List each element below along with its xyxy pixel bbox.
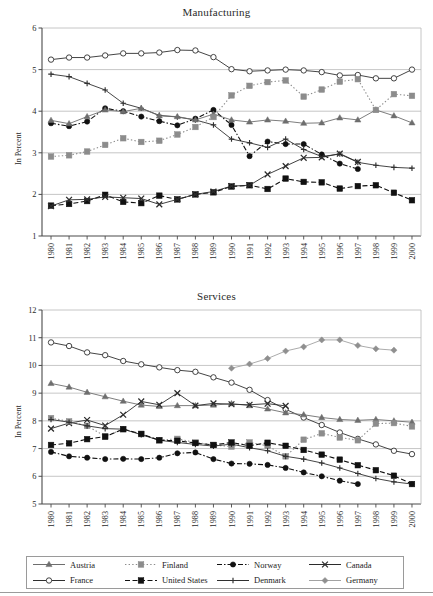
- data-point-triangle: [265, 117, 271, 122]
- data-point-open-circle: [337, 73, 342, 78]
- series-norway: [48, 106, 360, 172]
- legend-item-norway[interactable]: Norway: [215, 559, 307, 570]
- x-tick-label: 1995: [318, 243, 327, 259]
- x-tick-label: 1991: [246, 243, 255, 259]
- x-tick-label: 1982: [83, 243, 92, 259]
- data-point-square: [229, 93, 235, 99]
- data-point-x: [48, 426, 54, 432]
- x-tick-label: 1997: [354, 511, 363, 527]
- data-point-circle: [229, 122, 234, 127]
- data-point-open-circle: [265, 68, 270, 73]
- legend-marker-x-icon: [307, 559, 343, 570]
- data-point-square: [337, 435, 343, 441]
- legend-label: France: [70, 575, 93, 585]
- data-point-circle: [283, 141, 288, 146]
- x-tick-label: 1984: [119, 243, 128, 259]
- data-point-square: [157, 138, 163, 144]
- legend-item-canada[interactable]: Canada: [307, 559, 399, 570]
- legend-label: Austria: [70, 560, 95, 570]
- x-tick-label: 1998: [372, 243, 381, 259]
- data-point-circle: [355, 166, 360, 171]
- data-point-triangle: [46, 562, 52, 567]
- data-point-diamond: [322, 577, 328, 583]
- data-point-square: [48, 154, 54, 160]
- data-point-open-circle: [319, 422, 324, 427]
- data-point-square: [337, 457, 343, 463]
- data-point-square: [265, 440, 271, 446]
- x-tick-label: 1989: [209, 511, 218, 527]
- data-point-plus: [391, 479, 397, 485]
- data-point-diamond: [246, 361, 252, 367]
- x-tick-label: 1990: [228, 511, 237, 527]
- data-point-open-circle: [84, 55, 89, 60]
- data-point-square: [373, 182, 379, 188]
- series-france: [48, 47, 414, 81]
- data-point-open-circle: [193, 369, 198, 374]
- data-point-open-circle: [66, 55, 71, 60]
- data-point-square: [409, 93, 415, 99]
- data-point-square: [120, 426, 126, 432]
- data-point-diamond: [265, 355, 271, 361]
- data-point-open-circle: [247, 69, 252, 74]
- legend-item-denmark[interactable]: Denmark: [215, 575, 307, 586]
- data-point-open-circle: [283, 67, 288, 72]
- data-point-circle: [301, 470, 306, 475]
- data-point-circle: [229, 461, 234, 466]
- data-point-square: [138, 139, 144, 145]
- data-point-open-circle: [48, 340, 53, 345]
- legend-marker-diamond-icon: [307, 575, 343, 586]
- data-point-plus: [301, 147, 307, 153]
- series-norway: [48, 449, 360, 486]
- data-point-plus: [355, 471, 361, 477]
- data-point-circle: [247, 154, 252, 159]
- data-point-open-circle: [102, 53, 107, 58]
- data-point-square: [120, 135, 126, 141]
- data-point-circle: [337, 478, 342, 483]
- data-point-open-circle: [46, 578, 51, 583]
- x-tick-label: 1984: [119, 511, 128, 527]
- data-point-open-circle: [229, 380, 234, 385]
- data-point-open-circle: [391, 448, 396, 453]
- data-point-square: [301, 437, 307, 443]
- x-tick-label: 1983: [101, 511, 110, 527]
- data-point-square: [301, 179, 307, 185]
- data-point-circle: [175, 451, 180, 456]
- data-point-open-circle: [66, 343, 71, 348]
- data-point-open-circle: [391, 76, 396, 81]
- x-tick-label: 1988: [191, 511, 200, 527]
- x-tick-label: 1986: [155, 243, 164, 259]
- panel-services: Services In Percent 56789101112198019811…: [0, 288, 433, 553]
- legend-item-france[interactable]: France: [31, 575, 123, 586]
- data-point-square: [319, 431, 325, 437]
- data-point-square: [373, 467, 379, 473]
- legend-item-finland[interactable]: Finland: [123, 559, 215, 570]
- data-point-square: [409, 481, 415, 487]
- x-tick-label: 2000: [408, 511, 417, 527]
- data-point-open-circle: [157, 365, 162, 370]
- x-tick-label: 1994: [300, 511, 309, 527]
- data-point-circle: [139, 457, 144, 462]
- data-point-square: [355, 76, 361, 82]
- x-tick-label: 1989: [209, 243, 218, 259]
- chart-title-manufacturing: Manufacturing: [0, 0, 433, 18]
- legend-item-germany[interactable]: Germany: [307, 575, 399, 586]
- data-point-open-circle: [319, 69, 324, 74]
- data-point-square: [409, 197, 415, 203]
- data-point-plus: [247, 140, 253, 146]
- data-point-circle: [301, 141, 306, 146]
- series-united-states: [48, 176, 415, 209]
- data-point-square: [283, 78, 289, 84]
- x-tick-label: 1999: [390, 511, 399, 527]
- data-point-open-circle: [139, 51, 144, 56]
- legend-item-united-states[interactable]: United States: [123, 575, 215, 586]
- data-point-square: [157, 437, 163, 443]
- data-point-square: [66, 152, 72, 158]
- data-point-square: [247, 83, 253, 89]
- services-svg: 5678910111219801981198219831984198519861…: [0, 304, 433, 552]
- x-tick-label: 1986: [155, 511, 164, 527]
- y-tick-label: 2: [32, 190, 36, 199]
- data-point-open-circle: [301, 68, 306, 73]
- legend-marker-triangle-icon: [31, 559, 67, 570]
- data-point-plus: [391, 165, 397, 171]
- legend-item-austria[interactable]: Austria: [31, 559, 123, 570]
